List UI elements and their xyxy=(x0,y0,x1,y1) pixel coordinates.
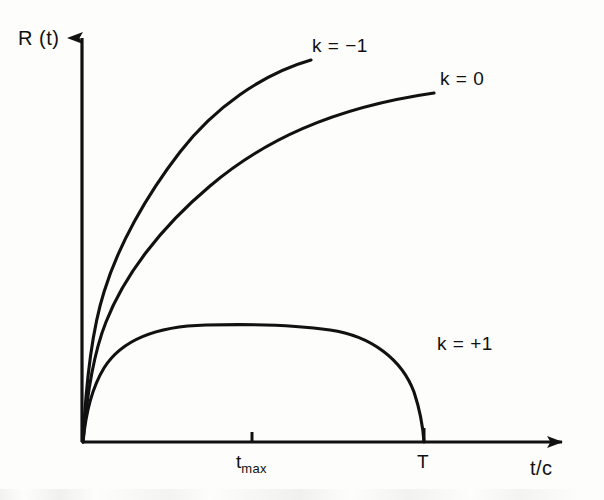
curve-label-k-0: k = 0 xyxy=(440,69,484,88)
tick-label-tmax: tmax xyxy=(236,452,267,475)
curve-label-k-plus-1: k = +1 xyxy=(437,334,493,353)
y-axis-label: R (t) xyxy=(18,28,59,48)
cosmology-scale-factor-figure: R (t) t/c k = −1 k = 0 k = +1 tmax T xyxy=(0,0,604,500)
curve-k-0 xyxy=(83,93,434,442)
tick-label-T: T xyxy=(417,452,429,471)
tick-label-tmax-subscript: max xyxy=(241,461,266,476)
x-axis-label: t/c xyxy=(530,458,553,478)
plot-canvas xyxy=(0,0,604,500)
curve-label-k-minus-1: k = −1 xyxy=(312,36,368,55)
curve-k-minus-1 xyxy=(83,60,311,442)
curve-k-plus-1 xyxy=(83,325,424,442)
